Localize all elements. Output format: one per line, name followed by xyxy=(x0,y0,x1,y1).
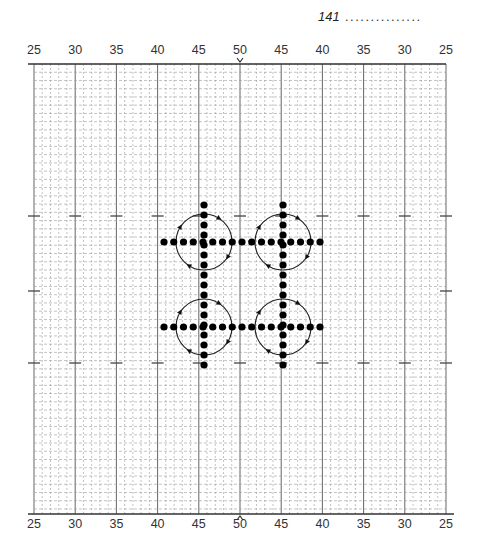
stitch-dot xyxy=(200,261,207,268)
stitch-dot xyxy=(279,251,286,258)
stitch-dot xyxy=(238,238,245,245)
stitch-dot xyxy=(279,301,286,308)
stitch-dot xyxy=(248,238,255,245)
stitch-dot xyxy=(279,311,286,318)
stitch-dot xyxy=(279,261,286,268)
stitch-dot xyxy=(200,281,207,288)
stitch-dot xyxy=(200,331,207,338)
stitch-dot xyxy=(200,321,207,328)
stitch-dot xyxy=(248,323,255,330)
stitch-dot xyxy=(170,323,177,330)
stitch-dot xyxy=(279,221,286,228)
stitch-dot xyxy=(200,351,207,358)
stitch-dot xyxy=(200,221,207,228)
stitch-dot xyxy=(200,241,207,248)
stitch-dot xyxy=(268,238,275,245)
stitch-dot xyxy=(200,201,207,208)
stitch-dot xyxy=(200,301,207,308)
stitch-dot xyxy=(200,211,207,218)
stitch-dot xyxy=(200,291,207,298)
stitch-dot xyxy=(268,323,275,330)
stitch-dot xyxy=(279,211,286,218)
stitch-dot xyxy=(279,341,286,348)
stitch-dot xyxy=(279,271,286,278)
stitch-dot xyxy=(279,291,286,298)
stitch-dot xyxy=(316,238,323,245)
stitch-dot xyxy=(287,323,294,330)
stitch-dot xyxy=(209,323,216,330)
stitch-dot xyxy=(180,238,187,245)
stitch-dot xyxy=(219,323,226,330)
stitch-dot xyxy=(160,323,167,330)
stitch-dot xyxy=(190,238,197,245)
stitch-dot xyxy=(287,238,294,245)
stitch-dot xyxy=(279,241,286,248)
stitch-dot xyxy=(200,271,207,278)
stitch-dot xyxy=(209,238,216,245)
stitch-dot xyxy=(200,231,207,238)
stitch-dot xyxy=(170,238,177,245)
stitch-dot xyxy=(279,321,286,328)
stitch-dot xyxy=(316,323,323,330)
stitch-dot xyxy=(258,323,265,330)
stitch-dot xyxy=(279,331,286,338)
stitch-dot xyxy=(307,323,314,330)
center-marker-top-icon xyxy=(237,58,243,62)
stitch-chart-grid xyxy=(0,0,479,557)
stitch-dot xyxy=(229,323,236,330)
stitch-dot xyxy=(200,251,207,258)
stitch-dot xyxy=(160,238,167,245)
stitch-dot xyxy=(200,361,207,368)
center-marker-bottom-icon xyxy=(237,516,243,520)
stitch-dot xyxy=(200,311,207,318)
stitch-dot xyxy=(279,361,286,368)
stitch-dot xyxy=(229,238,236,245)
stitch-dot xyxy=(279,281,286,288)
stitch-dot xyxy=(190,323,197,330)
stitch-dot xyxy=(219,238,226,245)
stitch-dot xyxy=(180,323,187,330)
stitch-dot xyxy=(200,341,207,348)
stitch-dot xyxy=(297,238,304,245)
stitch-dot xyxy=(258,238,265,245)
stitch-dot xyxy=(238,323,245,330)
stitch-dot xyxy=(297,323,304,330)
stitch-dot xyxy=(279,351,286,358)
stitch-dot xyxy=(279,201,286,208)
stitch-dot xyxy=(279,231,286,238)
stitch-dot xyxy=(307,238,314,245)
